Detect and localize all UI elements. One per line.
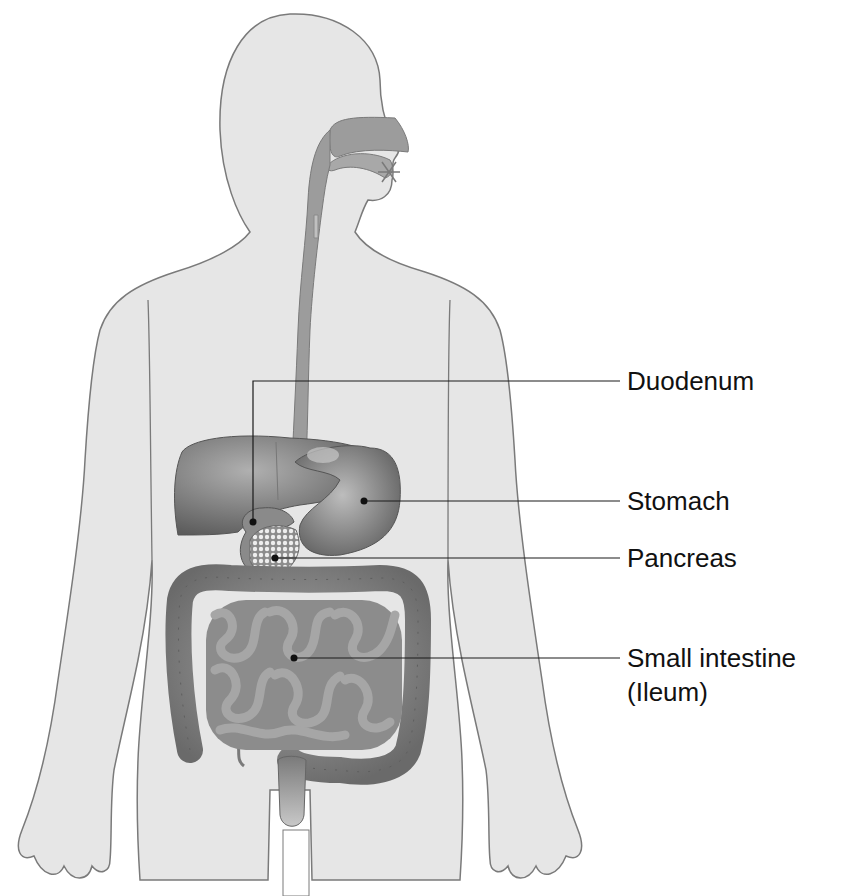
label-duodenum: Duodenum (627, 365, 754, 397)
label-small-intestine: Small intestine (627, 642, 796, 674)
digestive-system-diagram (0, 0, 842, 896)
trachea (314, 215, 318, 238)
label-ileum: (Ileum) (627, 676, 708, 708)
stomach-pointer (361, 498, 368, 505)
label-pancreas: Pancreas (627, 542, 737, 574)
leg-gap (283, 830, 309, 896)
duodenum-pointer (250, 519, 257, 526)
gastric-fundus-highlight (307, 447, 339, 463)
pancreas-pointer (272, 555, 279, 562)
small-intestine-pointer (291, 655, 298, 662)
small-intestine (206, 600, 402, 750)
rectum (278, 756, 306, 826)
label-stomach: Stomach (627, 485, 730, 517)
nasal-cavity (329, 117, 408, 157)
